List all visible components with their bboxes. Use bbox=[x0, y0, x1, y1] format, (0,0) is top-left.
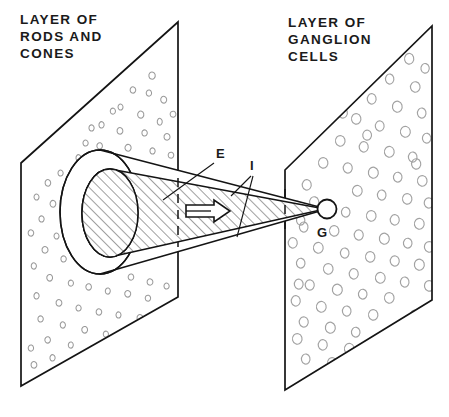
ganglion-cell-circle-G bbox=[318, 200, 337, 219]
right-heading-line-3: CELLS bbox=[288, 49, 339, 64]
marker-label-G: G bbox=[317, 225, 328, 240]
marker-label-E: E bbox=[216, 146, 225, 161]
left-heading-line-3: CONES bbox=[20, 46, 75, 61]
right-heading-line-2: GANGLION bbox=[288, 32, 372, 47]
marker-label-I: I bbox=[250, 158, 254, 173]
right-heading-line-1: LAYER OF bbox=[288, 15, 366, 30]
retina-layers-figure: LAYER OF RODS AND CONES LAYER OF GANGLIO… bbox=[0, 0, 449, 417]
left-heading-line-2: RODS AND bbox=[20, 29, 103, 44]
diagram-canvas: LAYER OF RODS AND CONES LAYER OF GANGLIO… bbox=[0, 0, 449, 417]
left-heading-line-1: LAYER OF bbox=[20, 12, 98, 27]
inner-cone-front-face bbox=[82, 169, 138, 257]
